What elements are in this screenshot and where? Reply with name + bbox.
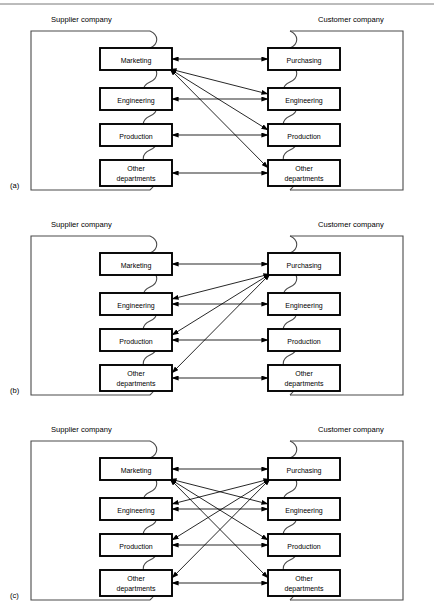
fan-marketing-to-cust-production-a: [170, 69, 268, 130]
panel-c: Supplier company Customer company Market…: [10, 425, 403, 600]
box-label-line2: departments: [117, 585, 156, 593]
customer-box-production-c[interactable]: Production: [268, 534, 340, 556]
box-label-line1: Other: [295, 575, 313, 582]
customer-box-engineering-b[interactable]: Engineering: [268, 293, 340, 315]
panel-label-c: (c): [10, 591, 19, 600]
panel-label-a: (a): [10, 181, 20, 190]
supplier-box-other-c[interactable]: Other departments: [100, 570, 172, 596]
box-label: Marketing: [121, 262, 152, 270]
figure-root: Supplier company Customer company Market…: [0, 0, 434, 616]
supplier-box-other-a[interactable]: Other departments: [100, 160, 172, 186]
box-label: Purchasing: [286, 262, 321, 270]
box-label-line1: Other: [127, 165, 145, 172]
panel-label-b: (b): [10, 386, 20, 395]
supplier-box-production-c[interactable]: Production: [100, 534, 172, 556]
box-label: Engineering: [117, 97, 154, 105]
box-label: Production: [119, 338, 153, 345]
supplier-company-label-c: Supplier company: [51, 425, 112, 434]
customer-box-purchasing-c[interactable]: Purchasing: [268, 458, 340, 480]
supplier-box-engineering-a[interactable]: Engineering: [100, 88, 172, 110]
supplier-company-label-b: Supplier company: [51, 220, 112, 229]
box-label-line2: departments: [117, 380, 156, 388]
fan-purchasing-to-supp-production-b: [172, 274, 270, 335]
panel-a: Supplier company Customer company Market…: [10, 15, 403, 190]
customer-box-production-b[interactable]: Production: [268, 329, 340, 351]
customer-box-production-a[interactable]: Production: [268, 124, 340, 146]
supplier-box-engineering-b[interactable]: Engineering: [100, 293, 172, 315]
customer-box-engineering-a[interactable]: Engineering: [268, 88, 340, 110]
box-label: Engineering: [117, 302, 154, 310]
customer-box-other-a[interactable]: Other departments: [268, 160, 340, 186]
box-label: Engineering: [117, 507, 154, 515]
customer-box-other-c[interactable]: Other departments: [268, 570, 340, 596]
supplier-box-marketing-b[interactable]: Marketing: [100, 253, 172, 275]
customer-company-label-b: Customer company: [318, 220, 384, 229]
fan-purchasing-to-supp-engineering-b: [172, 274, 270, 299]
supplier-box-production-b[interactable]: Production: [100, 329, 172, 351]
box-label: Production: [287, 338, 321, 345]
panel-b: Supplier company Customer company Market…: [10, 220, 403, 395]
supplier-box-other-b[interactable]: Other departments: [100, 365, 172, 391]
box-label: Production: [287, 133, 321, 140]
box-label: Production: [119, 133, 153, 140]
box-label: Production: [287, 543, 321, 550]
supplier-box-marketing-c[interactable]: Marketing: [100, 458, 172, 480]
box-label: Marketing: [121, 57, 152, 65]
box-label: Engineering: [285, 507, 322, 515]
fan-marketing-to-cust-engineering-c: [170, 479, 268, 504]
customer-box-engineering-c[interactable]: Engineering: [268, 498, 340, 520]
box-label-line2: departments: [117, 175, 156, 183]
box-label-line2: departments: [285, 175, 324, 183]
fan-marketing-to-cust-engineering-a: [170, 69, 268, 94]
box-label-line1: Other: [295, 165, 313, 172]
box-label: Purchasing: [286, 57, 321, 65]
box-label-line2: departments: [285, 585, 324, 593]
supplier-box-marketing-a[interactable]: Marketing: [100, 48, 172, 70]
customer-box-other-b[interactable]: Other departments: [268, 365, 340, 391]
fan-marketing-to-cust-other-c: [170, 479, 268, 578]
customer-company-label-c: Customer company: [318, 425, 384, 434]
customer-company-label-a: Customer company: [318, 15, 384, 24]
box-label-line1: Other: [127, 370, 145, 377]
box-label: Engineering: [285, 97, 322, 105]
supplier-box-engineering-c[interactable]: Engineering: [100, 498, 172, 520]
box-label: Purchasing: [286, 467, 321, 475]
box-label: Marketing: [121, 467, 152, 475]
box-label-line1: Other: [295, 370, 313, 377]
supplier-company-label-a: Supplier company: [51, 15, 112, 24]
fan-marketing-to-cust-other-a: [170, 69, 268, 168]
fan-purchasing-to-supp-engineering-c: [172, 479, 270, 504]
fan-purchasing-to-supp-other-b: [172, 274, 270, 373]
supplier-box-production-a[interactable]: Production: [100, 124, 172, 146]
customer-box-purchasing-b[interactable]: Purchasing: [268, 253, 340, 275]
box-label: Engineering: [285, 302, 322, 310]
diagram-canvas: Supplier company Customer company Market…: [0, 0, 434, 616]
box-label-line2: departments: [285, 380, 324, 388]
customer-box-purchasing-a[interactable]: Purchasing: [268, 48, 340, 70]
fan-purchasing-to-supp-other-c: [172, 479, 270, 578]
box-label: Production: [119, 543, 153, 550]
box-label-line1: Other: [127, 575, 145, 582]
